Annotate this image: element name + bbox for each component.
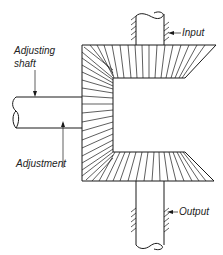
svg-text:shaft: shaft: [14, 58, 37, 69]
carrier-wall-teeth: [82, 52, 113, 176]
bearing-hatch-icon: [131, 16, 169, 41]
svg-text:Adjustment: Adjustment: [15, 158, 67, 169]
upper-bevel-gear: [82, 45, 216, 78]
output-shaft: [131, 181, 169, 250]
svg-text:Input: Input: [182, 27, 205, 38]
bevel-gear-diagram: Adjusting shaft Adjustment: [0, 0, 223, 255]
bearing-hatch-icon: [131, 208, 169, 232]
output-label: Output: [167, 206, 210, 217]
svg-text:Adjusting: Adjusting: [13, 45, 56, 56]
input-shaft: [131, 12, 169, 45]
input-label: Input: [168, 27, 205, 38]
arrow-up-icon: [61, 121, 65, 127]
adjusting-shaft-label: Adjusting shaft: [13, 45, 56, 97]
arrow-down-icon: [33, 91, 37, 97]
svg-text:Output: Output: [179, 206, 210, 217]
adjusting-shaft: [13, 97, 82, 128]
